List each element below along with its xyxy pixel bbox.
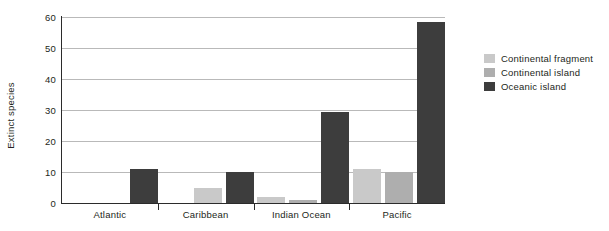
bar-group-bars (254, 17, 350, 203)
x-tick-label-caribbean: Caribbean (183, 209, 229, 220)
x-tick-mark-1 (158, 203, 159, 210)
bar-pacific-continental-fragment (353, 169, 381, 203)
y-axis-tick-labels: 0102030405060 (0, 0, 56, 231)
bar-indian-ocean-oceanic-island (321, 112, 349, 203)
chart-legend: Continental fragmentContinental islandOc… (484, 52, 593, 94)
bar-group-bars (158, 17, 254, 203)
bar-atlantic-oceanic-island (130, 169, 158, 203)
bar-indian-ocean-continental-island (289, 200, 317, 203)
bar-caribbean-continental-fragment (194, 188, 222, 204)
bar-group-bars (349, 17, 445, 203)
bar-group-pacific (349, 17, 445, 203)
y-tick-label-30: 30 (45, 105, 56, 116)
plot-area (62, 17, 445, 203)
y-tick-label-10: 10 (45, 167, 56, 178)
legend-swatch-icon (484, 82, 495, 91)
legend-item-label: Oceanic island (501, 81, 566, 92)
bar-group-indian-ocean (254, 17, 350, 203)
bar-group-bars (62, 17, 158, 203)
legend-item-oceanic-island: Oceanic island (484, 80, 593, 94)
legend-item-label: Continental island (501, 67, 580, 78)
y-tick-label-60: 60 (45, 12, 56, 23)
y-tick-label-50: 50 (45, 43, 56, 54)
x-tick-label-pacific: Pacific (382, 209, 411, 220)
bar-group-atlantic (62, 17, 158, 203)
x-tick-label-atlantic: Atlantic (93, 209, 126, 220)
bar-indian-ocean-continental-fragment (257, 197, 285, 203)
y-tick-label-20: 20 (45, 136, 56, 147)
bar-chart-figure: Extinct species 0102030405060 AtlanticCa… (0, 0, 609, 231)
bar-pacific-continental-island (385, 172, 413, 203)
y-tick-label-40: 40 (45, 74, 56, 85)
x-tick-mark-2 (254, 203, 255, 210)
legend-item-continental-fragment: Continental fragment (484, 52, 593, 66)
bar-caribbean-oceanic-island (226, 172, 254, 203)
legend-item-continental-island: Continental island (484, 66, 593, 80)
legend-swatch-icon (484, 54, 495, 63)
y-tick-label-0: 0 (51, 198, 56, 209)
bar-pacific-oceanic-island (417, 22, 445, 203)
x-tick-mark-3 (349, 203, 350, 210)
legend-item-label: Continental fragment (501, 53, 593, 64)
legend-swatch-icon (484, 68, 495, 77)
x-tick-label-indian-ocean: Indian Ocean (272, 209, 331, 220)
bar-group-caribbean (158, 17, 254, 203)
